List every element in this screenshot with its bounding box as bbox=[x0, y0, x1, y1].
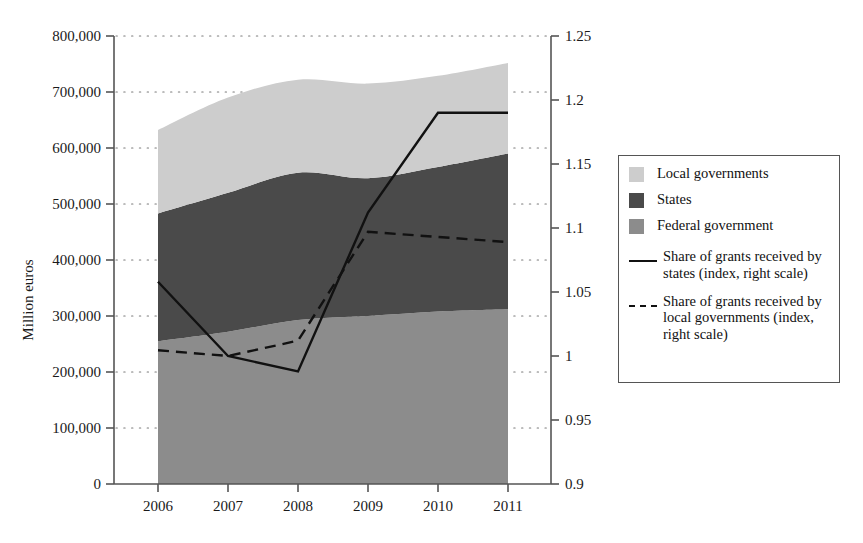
left-tick-label: 600,000 bbox=[52, 140, 101, 156]
area-federal-government bbox=[158, 309, 508, 484]
left-tick-label: 300,000 bbox=[52, 308, 101, 324]
legend-item-federal-government: Federal government bbox=[629, 217, 831, 234]
left-tick-label: 200,000 bbox=[52, 364, 101, 380]
legend-label-states: States bbox=[657, 191, 692, 208]
left-tick-label: 800,000 bbox=[52, 28, 101, 44]
right-tick-label: 0.9 bbox=[565, 476, 584, 492]
legend-swatch-federal-government bbox=[629, 219, 644, 234]
legend-label-local-share: Share of grants received by local govern… bbox=[663, 293, 831, 343]
legend-solid-line-icon bbox=[629, 254, 657, 269]
chart-legend: Local governments States Federal governm… bbox=[618, 155, 840, 383]
legend-label-states-share: Share of grants received by states (inde… bbox=[663, 248, 831, 282]
legend-item-local-governments: Local governments bbox=[629, 165, 831, 182]
left-tick-label: 400,000 bbox=[52, 252, 101, 268]
left-tick-label: 700,000 bbox=[52, 84, 101, 100]
legend-dashed-line-icon bbox=[629, 299, 657, 314]
legend-label-federal-government: Federal government bbox=[657, 217, 773, 234]
x-tick-label: 2007 bbox=[213, 498, 244, 514]
legend-item-states: States bbox=[629, 191, 831, 208]
legend-swatch-states bbox=[629, 193, 644, 208]
left-axis-title: Million euros bbox=[20, 259, 36, 340]
chart-container: 0100,000200,000300,000400,000500,000600,… bbox=[0, 0, 863, 543]
left-tick-label: 0 bbox=[94, 476, 102, 492]
x-tick-label: 2006 bbox=[143, 498, 174, 514]
x-tick-label: 2011 bbox=[493, 498, 522, 514]
right-tick-label: 1.25 bbox=[565, 28, 591, 44]
right-tick-label: 1.15 bbox=[565, 156, 591, 172]
right-tick-label: 1 bbox=[565, 348, 573, 364]
x-tick-label: 2008 bbox=[283, 498, 313, 514]
x-tick-label: 2009 bbox=[353, 498, 383, 514]
right-tick-label: 0.95 bbox=[565, 412, 591, 428]
right-tick-label: 1.1 bbox=[565, 220, 584, 236]
legend-label-local-governments: Local governments bbox=[657, 165, 769, 182]
legend-swatch-local-governments bbox=[629, 167, 644, 182]
right-tick-label: 1.2 bbox=[565, 92, 584, 108]
x-tick-label: 2010 bbox=[423, 498, 453, 514]
legend-item-local-share-line: Share of grants received by local govern… bbox=[629, 293, 831, 343]
legend-item-states-share-line: Share of grants received by states (inde… bbox=[629, 248, 831, 282]
area-series-layer bbox=[158, 63, 508, 484]
left-tick-label: 100,000 bbox=[52, 420, 101, 436]
right-tick-label: 1.05 bbox=[565, 284, 591, 300]
left-tick-label: 500,000 bbox=[52, 196, 101, 212]
